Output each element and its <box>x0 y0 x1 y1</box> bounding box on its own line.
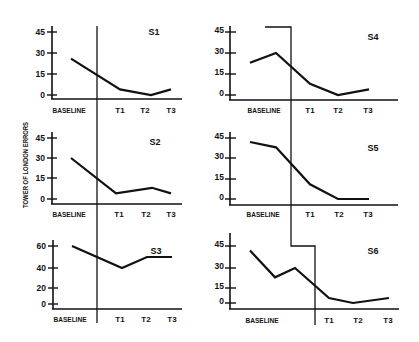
x-category-label: T2 <box>333 106 343 115</box>
y-tick-label: 45 <box>36 133 46 143</box>
y-tick-label: 45 <box>215 131 225 141</box>
y-tick-label: 0 <box>41 299 46 309</box>
x-category-label: BASELINE <box>53 210 87 219</box>
data-series-line <box>250 53 369 95</box>
panel-s5: 0 15 30 45 BASELINE T1 T2 T3 S5 <box>215 131 398 219</box>
y-tick-label: 0 <box>219 88 224 98</box>
y-tick-label: 0 <box>40 194 45 204</box>
y-tick-label: 30 <box>36 48 46 58</box>
y-tick-label: 15 <box>215 172 225 182</box>
y-tick-label: 30 <box>36 153 46 163</box>
x-category-label: BASELINE <box>54 315 88 324</box>
y-tick-label: 15 <box>215 281 225 291</box>
y-tick-label: 30 <box>215 261 225 271</box>
y-axis-title: TOWER OF LONDON ERRORS <box>21 122 30 208</box>
data-series-line <box>71 59 171 95</box>
x-category-label: T3 <box>166 210 176 219</box>
panel-title: S1 <box>148 27 159 37</box>
x-category-label: T3 <box>166 106 176 115</box>
y-tick-label: 30 <box>215 46 225 56</box>
panel-s4: 0 15 30 45 BASELINE T1 T2 T3 S4 <box>215 25 398 115</box>
panel-title: S2 <box>149 137 160 147</box>
x-category-label: T1 <box>305 106 315 115</box>
x-category-label: T1 <box>115 315 125 324</box>
x-category-label: T2 <box>141 210 151 219</box>
y-tick-label: 0 <box>40 90 45 100</box>
multiple-baseline-figure: TOWER OF LONDON ERRORS 0 15 30 45 BASELI… <box>0 0 419 342</box>
x-category-label: T3 <box>383 316 393 325</box>
y-tick-label: 45 <box>215 25 225 35</box>
y-tick-label: 30 <box>215 151 225 161</box>
x-category-label: T2 <box>353 316 363 325</box>
panel-s6: 0 15 30 45 BASELINE T1 T2 T3 S6 <box>215 233 399 325</box>
y-tick-label: 0 <box>219 192 224 202</box>
y-tick-label: 0 <box>219 296 224 306</box>
x-category-label: T1 <box>115 106 125 115</box>
x-category-label: T1 <box>114 210 124 219</box>
x-category-label: T1 <box>324 316 334 325</box>
panel-title: S3 <box>150 246 161 256</box>
data-series-line <box>250 142 369 199</box>
panel-s3: 0 20 40 60 BASELINE T1 T2 T3 S3 <box>37 240 182 324</box>
y-tick-label: 40 <box>37 263 47 273</box>
y-tick-label: 45 <box>215 239 225 249</box>
x-category-label: BASELINE <box>247 210 281 219</box>
y-tick-label: 20 <box>37 283 47 293</box>
data-series-line <box>71 158 171 193</box>
y-tick-label: 15 <box>36 173 46 183</box>
x-category-label: BASELINE <box>246 316 280 325</box>
x-category-label: T3 <box>363 210 373 219</box>
panel-s2: 0 15 30 45 BASELINE T1 T2 T3 S2 <box>36 132 182 219</box>
panel-title: S6 <box>367 246 378 256</box>
x-category-label: T1 <box>305 210 315 219</box>
x-category-label: BASELINE <box>53 106 87 115</box>
panel-title: S4 <box>367 32 378 42</box>
data-series-line <box>250 250 389 303</box>
x-category-label: BASELINE <box>248 106 282 115</box>
y-tick-label: 15 <box>36 69 46 79</box>
panel-title: S5 <box>367 143 378 153</box>
x-category-label: T3 <box>167 315 177 324</box>
panel-s1: 0 15 30 45 BASELINE T1 T2 T3 S1 <box>36 26 182 115</box>
x-category-label: T3 <box>363 106 373 115</box>
x-category-label: T2 <box>140 106 150 115</box>
y-tick-label: 15 <box>215 67 225 77</box>
x-category-label: T2 <box>334 210 344 219</box>
y-tick-label: 60 <box>37 241 47 251</box>
x-category-label: T2 <box>141 315 151 324</box>
y-tick-label: 45 <box>36 27 46 37</box>
